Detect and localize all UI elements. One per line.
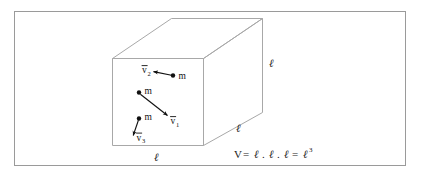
equation-equals-2: =: [292, 148, 299, 160]
particle-1-v-glyph: v: [171, 116, 176, 126]
equation-dot-2: .: [277, 148, 280, 160]
equation-term-3: ℓ: [284, 148, 289, 161]
physics-cube-diagram: ℓ ℓ ℓ m v 2 m v: [0, 0, 423, 175]
equation-term-1: ℓ: [254, 148, 259, 161]
edge-label-front: ℓ: [154, 151, 159, 164]
particle-2-dot: [171, 73, 175, 77]
particle-3-mass-label: m: [145, 112, 153, 122]
particle-1-v-subscript: 1: [176, 121, 179, 128]
equation-term-2: ℓ: [269, 148, 274, 161]
equation-dot-1: .: [262, 148, 265, 160]
particle-3-v-glyph: v: [137, 133, 142, 143]
figure-container: ℓ ℓ ℓ m v 2 m v: [0, 0, 423, 175]
equation-equals-1: =: [243, 148, 250, 160]
equation-lhs: V: [234, 148, 243, 160]
particle-2-v-subscript: 2: [148, 70, 151, 77]
equation-rhs-base: ℓ: [303, 148, 308, 161]
particle-3-v-subscript: 3: [142, 137, 145, 144]
edge-label-depth: ℓ: [236, 122, 241, 135]
particle-3-dot: [137, 116, 141, 120]
particle-2-v-glyph: v: [142, 65, 147, 75]
edge-label-right: ℓ: [269, 57, 274, 70]
particle-1-mass-label: m: [145, 86, 153, 96]
particle-2-mass-label: m: [179, 71, 187, 81]
equation-rhs-exponent: 3: [309, 146, 313, 154]
